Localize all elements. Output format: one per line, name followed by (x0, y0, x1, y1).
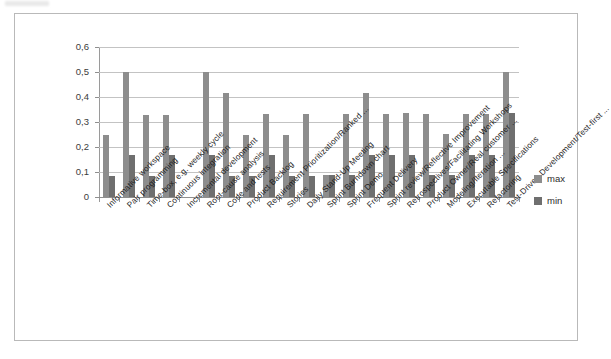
scan-artifact (5, 1, 49, 6)
value-axis-tick-label: 0,2 (55, 142, 89, 152)
bar-max (103, 135, 109, 198)
legend-label-min: min (547, 196, 562, 206)
legend-item-min: min (534, 196, 562, 206)
value-axis-tick-label: 0,3 (55, 117, 89, 127)
legend-swatch-min (534, 197, 542, 205)
chart-frame: 0,60,50,40,30,20,10 Informative workspac… (14, 13, 578, 341)
legend-label-max: max (547, 174, 565, 184)
value-axis-tick-label: 0,5 (55, 67, 89, 77)
bar-max (203, 72, 209, 197)
value-axis-tick-label: 0,6 (55, 42, 89, 52)
value-axis-tick-label: 0 (55, 192, 89, 202)
category-tick (99, 198, 100, 202)
legend-item-max: max (534, 174, 565, 184)
legend-swatch-max (534, 175, 542, 183)
value-axis-tick-label: 0,1 (55, 167, 89, 177)
bar-max (123, 72, 129, 197)
value-axis-tick-label: 0,4 (55, 92, 89, 102)
